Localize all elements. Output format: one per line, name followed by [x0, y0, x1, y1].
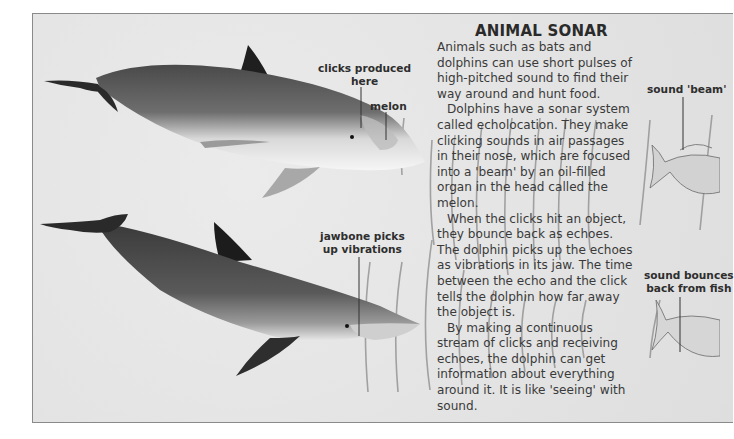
fish-top-illustration — [650, 144, 720, 193]
label-sound-bounces-line1: sound bounces — [644, 269, 734, 282]
label-sound-bounces-line2: back from fish — [644, 282, 734, 295]
label-sound-beam: sound 'beam' — [647, 83, 726, 96]
article-paragraph: When the clicks hit an object, they boun… — [437, 212, 637, 321]
article-paragraph: By making a continuous stream of clicks … — [437, 321, 637, 415]
article-paragraph: Dolphins have a sonar system called echo… — [437, 102, 637, 211]
fish-bottom-illustration — [652, 300, 720, 357]
label-clicks-produced: clicks produced here — [318, 62, 411, 88]
article-body: Animals such as bats and dolphins can us… — [437, 40, 637, 414]
label-clicks-produced-line1: clicks produced — [318, 62, 411, 75]
label-jawbone-line2: up vibrations — [320, 243, 405, 256]
label-jawbone-line1: jawbone picks — [320, 230, 405, 243]
label-melon: melon — [370, 100, 407, 113]
label-clicks-produced-line2: here — [318, 75, 411, 88]
label-sound-bounces: sound bounces back from fish — [644, 269, 734, 295]
label-jawbone: jawbone picks up vibrations — [320, 230, 405, 256]
article-title: ANIMAL SONAR — [475, 22, 608, 40]
article-paragraph: Animals such as bats and dolphins can us… — [437, 40, 637, 102]
